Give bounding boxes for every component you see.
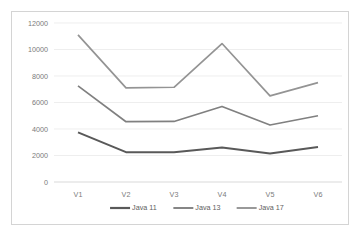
y-axis-tick-labels: 020004000600080001000012000 xyxy=(28,19,48,187)
x-tick-label: V5 xyxy=(266,190,275,199)
y-tick-label: 12000 xyxy=(28,19,48,28)
x-tick-label: V4 xyxy=(218,190,227,199)
y-tick-label: 8000 xyxy=(32,72,48,81)
y-tick-label: 6000 xyxy=(32,98,48,107)
legend-label-java-13: Java 13 xyxy=(195,203,220,212)
legend-label-java-11: Java 11 xyxy=(132,203,157,212)
data-series-group xyxy=(78,35,318,154)
y-tick-label: 4000 xyxy=(32,125,48,134)
series-line-java-17 xyxy=(78,35,318,96)
series-line-java-11 xyxy=(78,132,318,153)
x-tick-label: V1 xyxy=(74,190,83,199)
chart-container: 020004000600080001000012000 V1V2V3V4V5V6… xyxy=(11,11,349,225)
x-tick-label: V3 xyxy=(170,190,179,199)
line-chart: 020004000600080001000012000 V1V2V3V4V5V6… xyxy=(12,12,348,224)
y-tick-label: 2000 xyxy=(32,151,48,160)
legend-label-java-17: Java 17 xyxy=(259,203,284,212)
x-tick-label: V6 xyxy=(314,190,323,199)
x-axis-tick-labels: V1V2V3V4V5V6 xyxy=(74,190,323,199)
y-tick-label: 10000 xyxy=(28,45,48,54)
y-tick-label: 0 xyxy=(44,178,48,187)
x-tick-label: V2 xyxy=(122,190,131,199)
chart-legend: Java 11Java 13Java 17 xyxy=(110,203,284,212)
gridlines xyxy=(54,23,342,182)
